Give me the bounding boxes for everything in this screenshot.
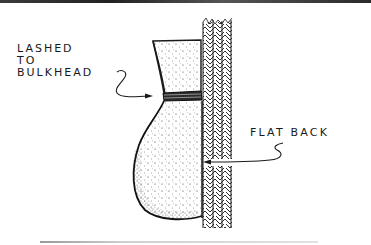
- vessel-diagram: [0, 0, 371, 245]
- vessel-neck: [153, 40, 201, 94]
- illustration-frame: LASHED TO BULKHEAD FLAT BACK: [0, 0, 371, 245]
- flat-back-label: FLAT BACK: [250, 127, 329, 139]
- label-line: FLAT BACK: [250, 127, 329, 139]
- label-line: BULKHEAD: [17, 67, 93, 79]
- bulkhead-wall: [203, 18, 232, 228]
- vessel-bulb: [134, 101, 202, 219]
- bottom-rule: [40, 241, 318, 243]
- lashed-to-bulkhead-label: LASHED TO BULKHEAD: [17, 43, 93, 79]
- lashed-callout-arrow: [116, 71, 153, 99]
- lashing: [163, 91, 202, 101]
